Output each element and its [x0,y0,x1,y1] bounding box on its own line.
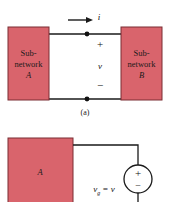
subnetwork-b-line2: network [128,59,157,69]
minus-sign-label: − [97,79,103,91]
voltage-label: v [98,61,102,71]
subnetwork-a-line3: A [25,70,32,80]
subnetwork-a-line1: Sub- [20,48,36,58]
subnetwork-b-line3: B [139,70,144,80]
source-minus-sign: − [135,180,141,191]
plus-sign-label: + [97,38,103,50]
source-voltage-rest: = v [102,184,114,194]
node-dot-bottom [85,97,90,102]
source-top-wire [73,145,138,165]
network-a-label: A [36,167,43,177]
source-voltage-label: vg= v [93,184,114,196]
figure-svg: Sub- network A Sub- network B i + v − (a… [0,0,170,202]
current-label: i [98,12,101,22]
subnetwork-b-line1: Sub- [133,48,149,58]
source-plus-sign: + [135,167,141,179]
current-arrow-icon [68,17,93,23]
circuit-figure: Sub- network A Sub- network B i + v − (a… [0,0,170,202]
node-dot-top [85,32,90,37]
source-voltage-subscript: g [97,190,100,196]
caption-a: (a) [81,108,90,117]
subnetwork-a-line2: network [15,59,44,69]
